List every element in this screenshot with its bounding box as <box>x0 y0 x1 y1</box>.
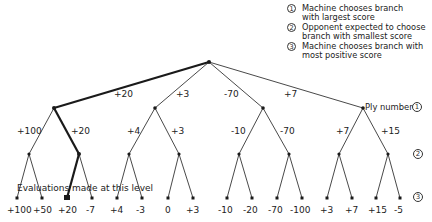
leaf-value: +20 <box>58 205 77 215</box>
leaf-value: -7 <box>86 205 95 215</box>
leaf-value: +4 <box>110 205 123 215</box>
root-node <box>207 60 211 64</box>
ply-3-marker-icon: 3 <box>413 192 423 202</box>
evaluation-note: Evaluations made at this level <box>17 183 153 193</box>
ply-1-marker-icon: 1 <box>287 4 296 13</box>
leaf-value: -20 <box>243 205 258 215</box>
leaf-value: +100 <box>7 205 32 215</box>
edge-root-l1-0 <box>54 62 209 108</box>
leaf-value: +3 <box>320 205 333 215</box>
branch-label: +3 <box>171 126 184 136</box>
legend-item-3: 3 Machine chooses branch with most posit… <box>287 42 432 61</box>
chosen-leaf <box>64 195 70 200</box>
legend-item-2: 2 Opponent expected to choose branch wit… <box>287 23 432 42</box>
branch-label: +3 <box>176 89 189 99</box>
leaf-value: -70 <box>268 205 283 215</box>
legend-text: most positive score <box>302 51 432 60</box>
leaf-value: -5 <box>394 205 403 215</box>
leaf-value: -3 <box>136 205 145 215</box>
leaf-value: -10 <box>218 205 233 215</box>
branch-label: +4 <box>127 126 140 136</box>
branch-label: -10 <box>231 126 246 136</box>
branch-label: +20 <box>114 89 133 99</box>
ply-2-marker-icon: 2 <box>413 149 423 159</box>
edge-root-l1-3 <box>209 62 363 108</box>
leaf-value: +3 <box>186 205 199 215</box>
l1-node <box>261 106 265 110</box>
branch-label: -70 <box>224 89 239 99</box>
ply-1-marker-icon: 1 <box>412 102 422 112</box>
ply-3-marker-icon: 3 <box>287 42 296 51</box>
ply-number-label: Ply number <box>365 102 413 112</box>
l1-node <box>153 106 157 110</box>
legend: 1 Machine chooses branch with largest sc… <box>287 4 432 60</box>
leaf-value: +15 <box>368 205 387 215</box>
leaf-value: 0 <box>165 205 171 215</box>
leaf-value: +50 <box>33 205 52 215</box>
leaf-value: -100 <box>290 205 310 215</box>
legend-item-1: 1 Machine chooses branch with largest sc… <box>287 4 432 23</box>
edge-root-l1-2 <box>209 62 263 108</box>
leaf-value: +7 <box>345 205 358 215</box>
branch-label: +7 <box>336 126 349 136</box>
branch-label: -70 <box>280 126 295 136</box>
branch-label: +20 <box>71 126 90 136</box>
l1-node <box>52 106 56 110</box>
ply-2-marker-icon: 2 <box>287 23 296 32</box>
branch-label: +100 <box>17 126 42 136</box>
branch-label: +7 <box>284 89 297 99</box>
branch-label: +15 <box>381 126 400 136</box>
